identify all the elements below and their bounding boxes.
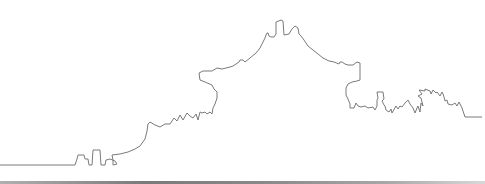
skyline-illustration: [0, 0, 485, 184]
bottom-border-bar: [0, 181, 485, 184]
skyline-outline-path: [0, 20, 482, 165]
skyline-outline-svg: [0, 0, 485, 184]
